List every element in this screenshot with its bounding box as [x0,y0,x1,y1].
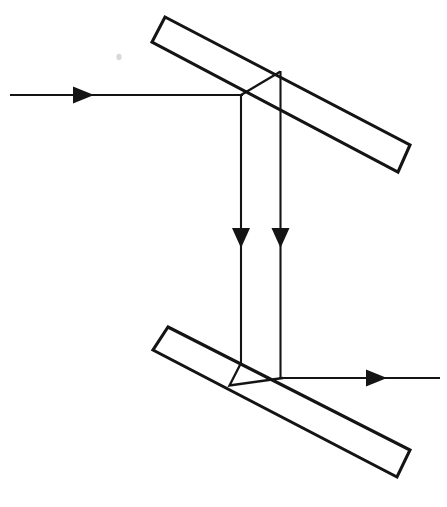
optics-diagram-root [0,0,447,507]
reflected-ray-right-arrowhead-icon [272,228,290,248]
input-ray [10,87,243,104]
output-ray-arrowhead-icon [366,370,387,387]
input-ray-arrowhead-icon [73,87,94,104]
transmitted-ray-left-arrowhead-icon [232,228,250,248]
output-ray [279,370,440,387]
reflected-ray-right [272,71,290,379]
optics-ray-diagram [0,0,447,507]
scan-artifact-speck [116,54,121,60]
transmitted-ray-left [232,94,250,364]
